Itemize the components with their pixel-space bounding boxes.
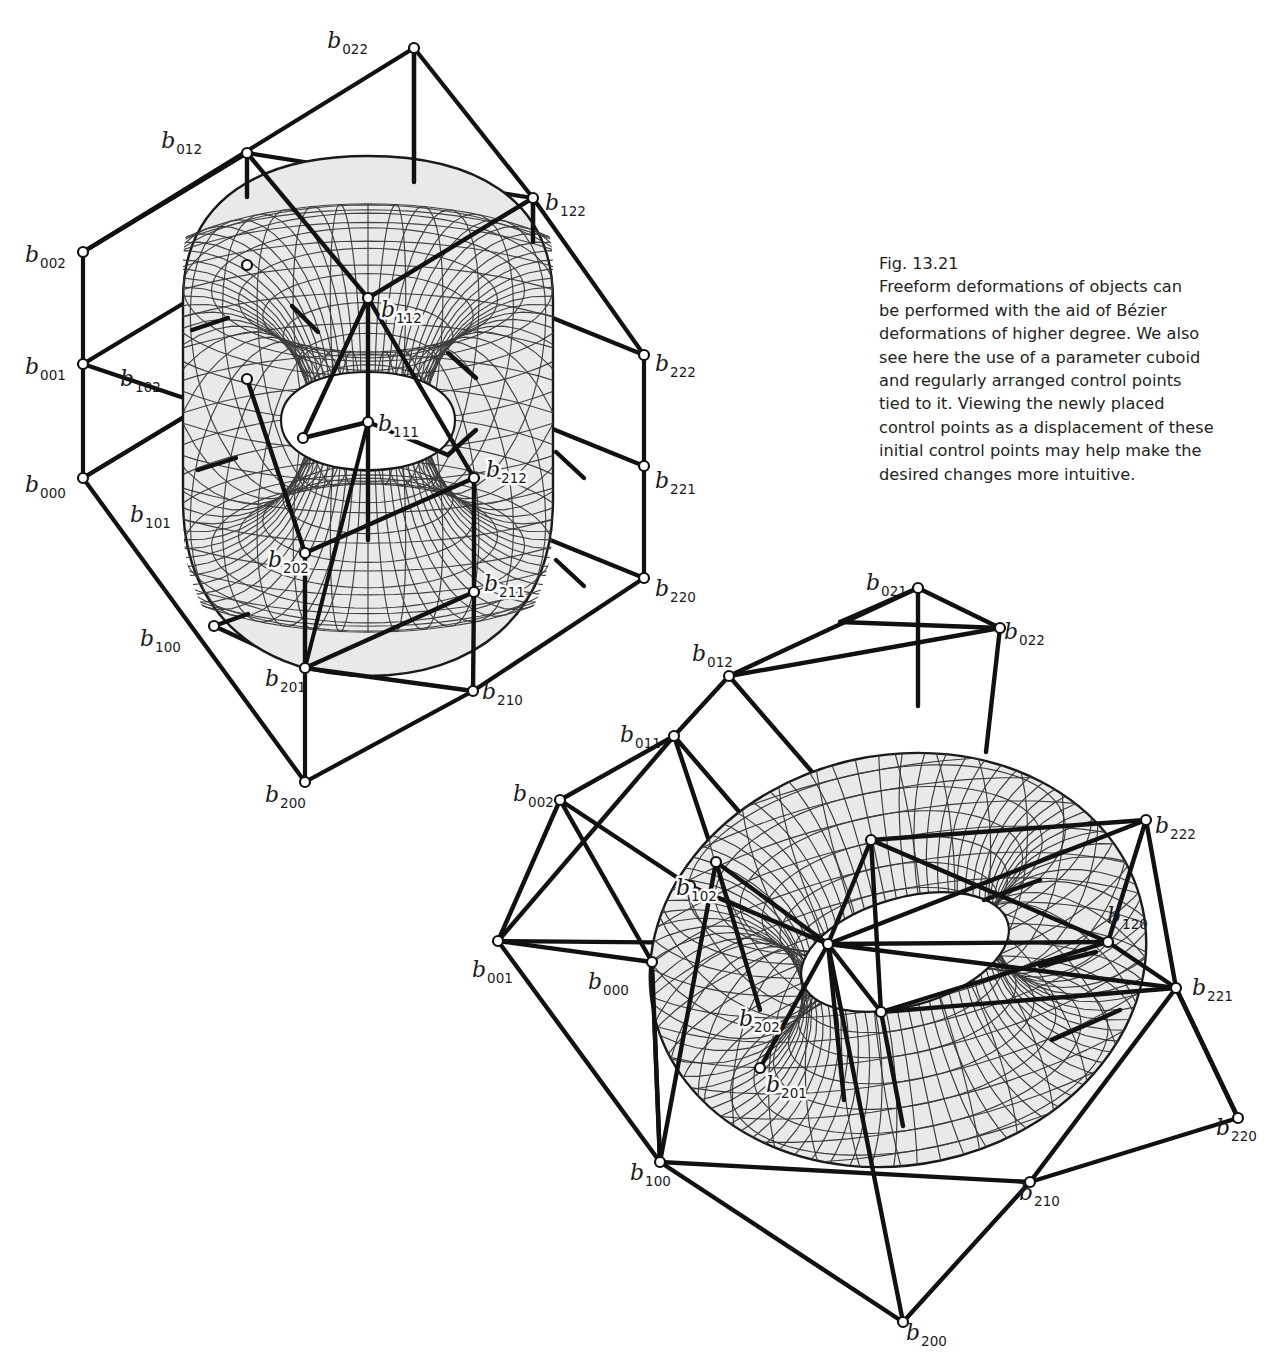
control-point[interactable] [1233, 1113, 1243, 1123]
control-point[interactable] [639, 573, 649, 583]
control-point[interactable] [242, 260, 252, 270]
control-point[interactable] [469, 473, 479, 483]
control-point-label: b221 [655, 468, 696, 497]
caption-line: control points as a displacement of thes… [879, 416, 1209, 439]
control-point[interactable] [1103, 937, 1113, 947]
control-point-label: b002 [513, 781, 554, 810]
control-point-label: b210 [482, 679, 523, 708]
caption-line: tied to it. Viewing the newly placed [879, 392, 1209, 415]
control-point-label: b102 [120, 366, 161, 395]
figure-caption: Fig. 13.21Freeform deformations of objec… [879, 252, 1209, 486]
caption-line: and regularly arranged control points [879, 369, 1209, 392]
control-point[interactable] [1171, 983, 1181, 993]
caption-line: Freeform deformations of objects can [879, 275, 1209, 298]
caption-line: see here the use of a parameter cuboid [879, 346, 1209, 369]
control-point-label: b200 [906, 1320, 947, 1349]
control-point-label: b022 [1004, 619, 1045, 648]
control-point[interactable] [876, 1007, 886, 1017]
panel-undeformed: b022b012b122b002b001b000b102b101b100b112… [25, 28, 696, 811]
control-point[interactable] [300, 548, 310, 558]
control-point[interactable] [655, 1157, 665, 1167]
control-point[interactable] [78, 359, 88, 369]
control-point-label: b000 [588, 969, 629, 998]
control-point-label: b001 [25, 354, 66, 383]
control-point-label: b021 [866, 570, 907, 599]
control-point[interactable] [639, 350, 649, 360]
figure-svg: b022b012b122b002b001b000b102b101b100b112… [0, 0, 1281, 1366]
control-point-label: b000 [25, 472, 66, 501]
control-point[interactable] [913, 583, 923, 593]
caption-line: deformations of higher degree. We also [879, 322, 1209, 345]
control-point[interactable] [300, 777, 310, 787]
control-point-label: b011 [620, 722, 661, 751]
caption-line: be performed with the aid of Bézier [879, 299, 1209, 322]
control-point[interactable] [78, 247, 88, 257]
control-point[interactable] [724, 671, 734, 681]
figure-root: b022b012b122b002b001b000b102b101b100b112… [0, 0, 1281, 1366]
control-point-label: b220 [655, 576, 696, 605]
caption-line: desired changes more intuitive. [879, 463, 1209, 486]
control-point[interactable] [363, 417, 373, 427]
control-point[interactable] [866, 835, 876, 845]
control-point-label: b222 [1155, 813, 1196, 842]
control-point[interactable] [78, 473, 88, 483]
control-point[interactable] [469, 587, 479, 597]
control-point-label: b012 [161, 128, 202, 157]
control-point-label: b012 [692, 641, 733, 670]
control-point[interactable] [300, 663, 310, 673]
control-point[interactable] [669, 731, 679, 741]
control-point[interactable] [468, 686, 478, 696]
control-point-label: b222 [655, 351, 696, 380]
control-point[interactable] [1141, 815, 1151, 825]
control-point-label: b002 [25, 242, 66, 271]
control-point[interactable] [493, 936, 503, 946]
control-point-label: b100 [140, 626, 181, 655]
control-point-label: b221 [1192, 975, 1233, 1004]
control-point[interactable] [823, 939, 833, 949]
control-point[interactable] [528, 193, 538, 203]
control-point[interactable] [555, 795, 565, 805]
control-point-label: b022 [327, 28, 368, 57]
control-point[interactable] [409, 43, 419, 53]
control-point[interactable] [209, 621, 219, 631]
caption-line: Fig. 13.21 [879, 252, 1209, 275]
control-point[interactable] [647, 957, 657, 967]
control-point[interactable] [363, 293, 373, 303]
control-point[interactable] [298, 433, 308, 443]
control-point-label: b200 [265, 782, 306, 811]
control-point-label: b101 [130, 502, 171, 531]
control-point[interactable] [755, 1063, 765, 1073]
panel-deformed: b021b022b012b011b002b001b000b102b222b120… [472, 570, 1261, 1349]
caption-line: initial control points may help make the [879, 439, 1209, 462]
control-point[interactable] [639, 461, 649, 471]
control-point[interactable] [711, 857, 721, 867]
control-point[interactable] [242, 374, 252, 384]
control-point-label: b001 [472, 957, 513, 986]
control-point[interactable] [242, 148, 252, 158]
control-point-label: b210 [1019, 1180, 1060, 1209]
control-point-label: b122 [545, 190, 586, 219]
